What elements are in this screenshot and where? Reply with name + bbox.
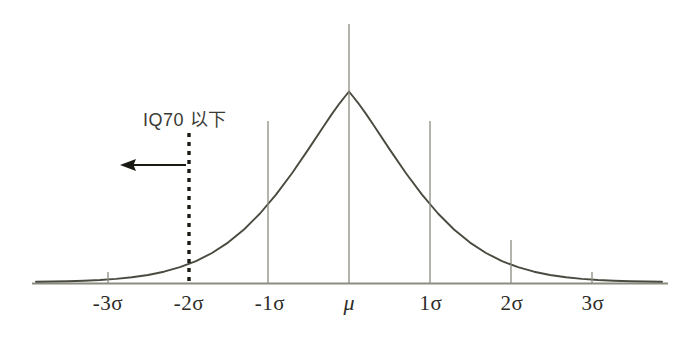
left-arrow-indicator: [120, 159, 186, 171]
tick-label-mu: μ: [343, 290, 354, 316]
tick-label-minus1sigma: -1σ: [255, 291, 285, 316]
tick-label-plus3sigma: 3σ: [582, 291, 605, 316]
tick-label-plus1sigma: 1σ: [420, 291, 443, 316]
normal-distribution-figure: IQ70 以下 -3σ -2σ -1σ μ 1σ 2σ 3σ: [0, 0, 694, 346]
tick-label-plus2sigma: 2σ: [501, 291, 524, 316]
tick-label-minus2sigma: -2σ: [174, 291, 204, 316]
iq70-threshold-label: IQ70 以下: [143, 105, 227, 131]
tick-label-minus3sigma: -3σ: [93, 291, 123, 316]
